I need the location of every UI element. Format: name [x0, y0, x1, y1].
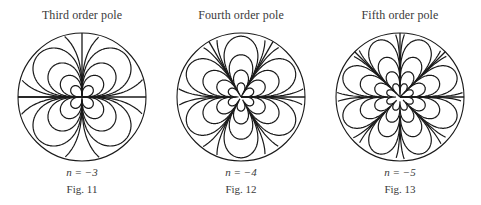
third-order-pole-diagram: [2, 28, 162, 168]
figure-caption: Fig. 13: [320, 183, 480, 195]
separatrix-line: [400, 52, 445, 97]
n-value-label: n = −3: [2, 166, 162, 178]
fourth-order-pole-diagram: [161, 28, 321, 168]
fifth-order-pole-diagram: [320, 28, 480, 168]
figure-title: Fourth order pole: [161, 8, 321, 23]
figure-caption: Fig. 12: [161, 183, 321, 195]
n-value-label: n = −4: [161, 166, 321, 178]
n-value-label: n = −5: [320, 166, 480, 178]
figure-13-panel: Fifth order pole n = −5 Fig. 13: [320, 0, 480, 205]
figure-title: Third order pole: [2, 8, 162, 23]
figure-caption: Fig. 11: [2, 183, 162, 195]
figure-title: Fifth order pole: [320, 8, 480, 23]
separatrix-line: [355, 52, 400, 97]
figure-12-panel: Fourth order pole n = −4 Fig. 12: [161, 0, 321, 205]
figure-11-panel: Third order pole n = −3 Fig. 11: [2, 0, 162, 205]
